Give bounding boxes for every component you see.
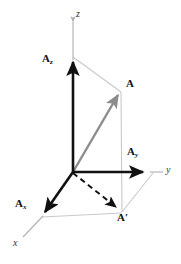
vector-label-ax-subscript: x [23, 203, 27, 211]
vector-label-a-text: A [126, 77, 134, 89]
vector-label-ax-text: A [15, 197, 23, 209]
vector-label-aprime-text: A [117, 211, 125, 223]
construction-line-ay-to-aprime [122, 173, 153, 212]
vector-label-az-subscript: z [50, 58, 53, 66]
vector-label-ax: Ax [15, 198, 26, 209]
vector-label-az-text: A [42, 52, 50, 64]
vector-ax-shaft [45, 172, 73, 212]
construction-line-ax-to-aprime [42, 213, 122, 217]
vector-label-ay-subscript: y [135, 151, 138, 159]
construction-line-az-to-a [73, 57, 121, 92]
vector-label-ay-text: A [127, 145, 135, 157]
vector-a-shaft [73, 95, 118, 172]
vector-label-aprime: A′ [117, 212, 128, 223]
axis-label-z: z [76, 9, 80, 19]
vector-diagram-canvas [0, 0, 181, 264]
vector-aprime-shaft [73, 173, 116, 207]
vector-diagram-figure: z y x A Az Ay Ax A′ [0, 0, 181, 264]
vector-a-group [73, 95, 118, 172]
construction-line-a-to-aprime [121, 92, 122, 212]
axis-label-y: y [166, 165, 170, 175]
axis-label-x: x [13, 238, 17, 248]
vector-label-aprime-mark: ′ [125, 211, 128, 223]
vector-label-ay: Ay [127, 146, 138, 157]
vector-label-a: A [126, 78, 134, 89]
vector-label-az: Az [42, 53, 53, 64]
x-axis-line [23, 216, 43, 237]
